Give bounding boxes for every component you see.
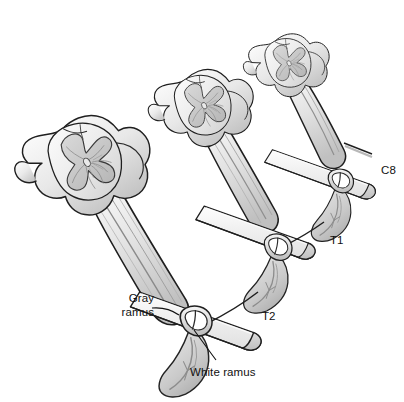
spinal-cord-t1 [144,64,259,153]
spinal-cord-t2 [9,108,158,225]
level-label-c8: C8 [381,164,396,178]
anatomy-illustration [0,0,404,402]
gray-ramus-label-line2: ramus [122,306,154,318]
level-label-t1: T1 [330,234,344,248]
gray-ramus-label: Grayramus [106,292,154,319]
level-label-t2: T2 [262,310,276,324]
white-ramus-label: White ramus [190,366,256,380]
anatomy-figure: Grayramus White ramus C8 T1 T2 [0,0,404,402]
sympathetic-ganglion-t1 [242,230,299,320]
spinal-cord-c8 [240,30,333,101]
gray-ramus-label-line1: Gray [129,292,154,304]
